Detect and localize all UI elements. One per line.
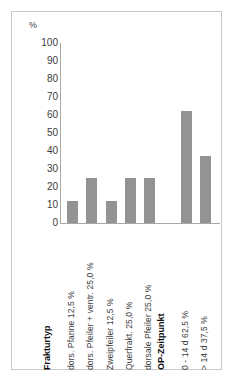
chart-frame: % 1009080706050403020100 Frakturtypdors.… xyxy=(11,11,222,370)
category-label: 0 - 14 d 62,5 % xyxy=(180,311,190,370)
bar xyxy=(144,178,155,223)
bar xyxy=(181,111,192,224)
category-labels-area: Frakturtypdors. Pfanne 12,5 %dors. Pfeil… xyxy=(12,225,222,370)
y-axis-tick-label: 40 xyxy=(14,146,58,156)
category-label: Zweipfeiler 12,5 % xyxy=(105,298,115,370)
plot-area xyxy=(61,43,220,223)
y-axis-tick-label: 90 xyxy=(14,56,58,66)
bar xyxy=(67,201,78,224)
category-label: > 14 d 37,5 % xyxy=(199,316,209,370)
category-label: dors. Pfeiler + ventr. 25,0 % xyxy=(85,262,95,370)
bar xyxy=(106,201,117,224)
bar xyxy=(200,156,211,224)
y-axis-unit-label: % xyxy=(29,20,37,30)
group-label-frakturtyp: Frakturtyp xyxy=(42,325,52,370)
y-axis-tick-label: 60 xyxy=(14,110,58,120)
y-axis-tick-label: 20 xyxy=(14,182,58,192)
y-axis-tick-label: 80 xyxy=(14,74,58,84)
category-label: dorsale Pfeiler 25,0 % xyxy=(143,285,153,370)
y-axis-tick-label: 10 xyxy=(14,200,58,210)
group-label-op-zeitpunkt: OP-Zeitpunkt xyxy=(156,314,166,371)
y-axis-tick-label: 70 xyxy=(14,92,58,102)
bar xyxy=(86,178,97,223)
y-axis-tick-label: 50 xyxy=(14,128,58,138)
category-label: Querfrakt. 25,0 % xyxy=(124,302,134,370)
x-axis-line xyxy=(60,223,220,224)
y-axis-tick-label: 100 xyxy=(14,38,58,48)
category-label: dors. Pfanne 12,5 % xyxy=(66,291,76,370)
bar xyxy=(125,178,136,223)
y-axis-tick-label: 30 xyxy=(14,164,58,174)
